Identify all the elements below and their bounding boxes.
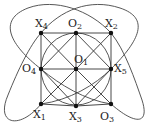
node-label-X1: X1 bbox=[33, 109, 46, 122]
label-base: X bbox=[33, 108, 41, 121]
label-base: X bbox=[114, 62, 122, 75]
label-subscript: 4 bbox=[43, 22, 48, 31]
node-label-O2: O2 bbox=[68, 18, 82, 31]
node-X1 bbox=[39, 102, 43, 106]
node-X3 bbox=[74, 104, 78, 108]
node-label-X3: X3 bbox=[69, 111, 82, 124]
node-label-X2: X2 bbox=[105, 18, 118, 31]
label-base: O bbox=[68, 17, 77, 30]
label-subscript: 4 bbox=[31, 67, 36, 76]
node-label-X4: X4 bbox=[35, 18, 48, 31]
node-label-O4: O4 bbox=[22, 63, 36, 76]
label-base: O bbox=[74, 53, 83, 66]
label-base: X bbox=[69, 110, 77, 123]
node-O1 bbox=[74, 67, 78, 71]
node-label-O3: O3 bbox=[100, 111, 114, 124]
node-O4 bbox=[39, 67, 43, 71]
node-label-X5: X5 bbox=[114, 63, 127, 76]
node-X4 bbox=[39, 31, 43, 35]
label-subscript: 3 bbox=[109, 115, 114, 124]
label-subscript: 2 bbox=[77, 22, 82, 31]
node-O3 bbox=[109, 102, 113, 106]
label-subscript: 2 bbox=[113, 22, 118, 31]
label-base: O bbox=[22, 62, 31, 75]
diagram: X4O2X2O4O1X5X1X3O3 bbox=[0, 0, 147, 133]
label-subscript: 5 bbox=[122, 67, 127, 76]
label-subscript: 1 bbox=[83, 58, 88, 67]
label-base: X bbox=[35, 17, 43, 30]
node-X2 bbox=[109, 31, 113, 35]
node-label-O1: O1 bbox=[74, 54, 88, 67]
node-X5 bbox=[109, 67, 113, 71]
label-base: O bbox=[100, 110, 109, 123]
node-O2 bbox=[74, 31, 78, 35]
label-base: X bbox=[105, 17, 113, 30]
label-subscript: 1 bbox=[41, 113, 46, 122]
label-subscript: 3 bbox=[77, 115, 82, 124]
